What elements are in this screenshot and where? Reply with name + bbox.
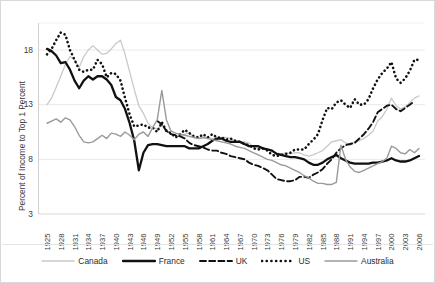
legend-item-canada[interactable]: Canada bbox=[41, 256, 107, 266]
data-series-layer bbox=[47, 33, 419, 185]
series-line-us bbox=[47, 33, 419, 157]
chart-legend: CanadaFranceUKUSAustralia bbox=[1, 251, 434, 271]
legend-item-france[interactable]: France bbox=[122, 256, 185, 266]
chart-container: Percent of Income to Top 1 Percent 38131… bbox=[0, 0, 435, 283]
legend-label: UK bbox=[236, 256, 248, 266]
legend-swatch-australia bbox=[324, 256, 358, 266]
series-line-uk bbox=[157, 101, 414, 181]
legend-swatch-france bbox=[122, 256, 156, 266]
legend-divider bbox=[2, 244, 433, 245]
legend-swatch-uk bbox=[199, 256, 233, 266]
legend-label: Australia bbox=[361, 256, 394, 266]
legend-swatch-us bbox=[261, 256, 295, 266]
legend-item-australia[interactable]: Australia bbox=[324, 256, 394, 266]
series-line-canada bbox=[47, 40, 419, 156]
legend-swatch-canada bbox=[41, 256, 75, 266]
legend-item-us[interactable]: US bbox=[261, 256, 310, 266]
legend-label: France bbox=[159, 256, 185, 266]
legend-label: Canada bbox=[78, 256, 107, 266]
legend-item-uk[interactable]: UK bbox=[199, 256, 248, 266]
gridlines bbox=[39, 23, 426, 214]
legend-label: US bbox=[298, 256, 310, 266]
plot-area bbox=[1, 1, 435, 283]
